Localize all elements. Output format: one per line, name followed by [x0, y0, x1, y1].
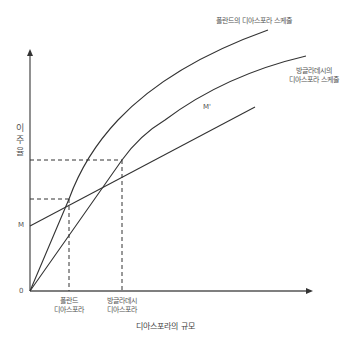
y-axis-label-char: 이: [14, 122, 26, 134]
bangladesh-curve-label-line1: 방글라데시의: [276, 67, 352, 76]
y-axis-arrow-icon: [27, 49, 33, 56]
x-axis-arrow-icon: [306, 288, 313, 294]
y-axis-label-char: 율: [14, 146, 26, 158]
bangladesh-tick-label-line1: 방글라데시: [100, 297, 144, 306]
bangladesh-curve-label-line2: 디아스포라 스케줄: [276, 76, 352, 85]
poland-curve-label: 폴란드의 디아스포라 스케줄: [216, 17, 292, 26]
poland-tick-label: 폴란드 디아스포라: [49, 297, 89, 315]
m-label: M: [18, 221, 24, 230]
bangladesh-tick-label: 방글라데시 디아스포라: [100, 297, 144, 315]
y-axis-label-char: 주: [14, 134, 26, 146]
m-prime-label: M': [203, 103, 211, 112]
diagram-canvas: [0, 0, 352, 343]
poland-tick-label-line1: 폴란드: [49, 297, 89, 306]
y-axis-label: 이 주 율: [14, 122, 26, 158]
origin-label: 0: [19, 287, 23, 296]
migration-line-m: [30, 107, 255, 226]
axes: [27, 49, 313, 294]
bangladesh-tick-label-line2: 디아스포라: [100, 306, 144, 315]
poland-tick-label-line2: 디아스포라: [49, 306, 89, 315]
x-axis-title: 디아스포라의 규모: [136, 320, 195, 331]
bangladesh-curve-label: 방글라데시의 디아스포라 스케줄: [276, 67, 352, 85]
bangladesh-diaspora-curve: [30, 56, 306, 291]
